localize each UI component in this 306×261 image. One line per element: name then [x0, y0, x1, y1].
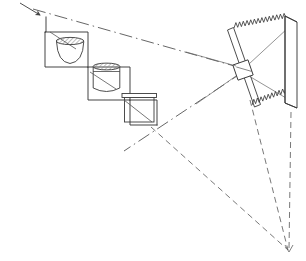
platform-outer-profile: [45, 17, 157, 125]
vessel-box: [122, 94, 157, 123]
plate-ray-c: [186, 52, 236, 66]
vessel-box-pointer: [124, 100, 152, 122]
vessel-box-rim-fill: [122, 94, 157, 98]
vessel-bowl: [50, 32, 84, 64]
optical-axis-group: [33, 9, 245, 151]
vessel-jar: [90, 63, 120, 91]
plate-cap-top: [228, 28, 234, 31]
ray-plate-to-focus: [250, 100, 288, 250]
plate-cap-bottom: [255, 105, 261, 108]
screen-bar: [285, 16, 297, 108]
ray-from-box-to-focus: [151, 127, 288, 250]
sawtooth-ray-group: [234, 13, 288, 105]
incoming-ray-arrow: [20, 3, 40, 15]
vessel-box-body: [125, 97, 155, 122]
plate-ray-a: [249, 28, 288, 64]
sawtooth-ray-upper: [234, 13, 286, 28]
ray-diagram-svg: [0, 0, 306, 261]
step-tread-3: [130, 100, 157, 125]
converging-dashed-rays: [151, 100, 291, 250]
incoming-ray-group: [20, 3, 40, 15]
screen-bar-front-face: [285, 16, 297, 108]
vessel-jar-pointer: [90, 72, 116, 89]
plate-ray-d: [196, 76, 236, 104]
ray-screen-to-focus: [289, 112, 291, 250]
figure-root: [0, 0, 306, 261]
stepped-platform: [45, 17, 157, 125]
vessel-jar-body: [93, 67, 120, 92]
tilted-aperture-plate: [228, 28, 261, 108]
